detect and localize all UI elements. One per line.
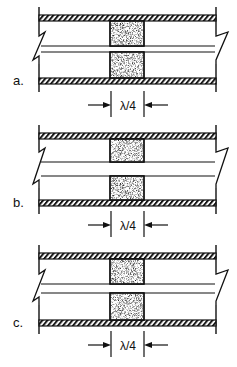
panel-a: a.λ/4 [13,7,228,117]
dielectric-block-upper [111,140,144,162]
dielectric-block-upper [111,260,144,284]
top-hatched-wall [39,253,216,259]
panel-label: c. [13,315,23,330]
dimension-label: λ/4 [120,219,136,233]
panel-label: b. [13,195,24,210]
dielectric-block-lower [111,177,144,200]
panel-label: a. [13,73,24,88]
dielectric-block-upper [111,22,144,46]
panel-b: b.λ/4 [13,125,228,237]
panel-c: c.λ/4 [13,245,228,357]
bottom-hatched-wall [39,78,216,84]
dimension-label: λ/4 [120,339,136,353]
dimension-label: λ/4 [120,99,136,113]
top-hatched-wall [39,15,216,21]
bottom-hatched-wall [39,200,216,206]
dielectric-block-lower [111,294,144,320]
top-hatched-wall [39,133,216,139]
waveguide-diagram: a.λ/4b.λ/4c.λ/4 [0,0,237,367]
bottom-hatched-wall [39,320,216,326]
dielectric-block-lower [111,53,144,78]
